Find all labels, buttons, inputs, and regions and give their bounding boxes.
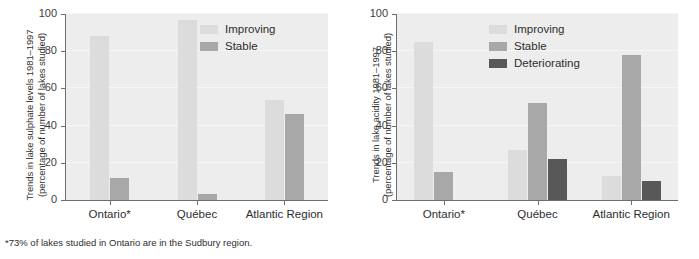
y-tick-mark: [392, 126, 396, 127]
y-tick-label: 60: [31, 81, 57, 93]
y-axis-title-line2: (percentage of number of lakes studied): [382, 10, 394, 220]
y-tick-label: 80: [362, 44, 388, 56]
y-tick-mark: [392, 14, 396, 15]
bar-acidity-1-2: [548, 159, 567, 200]
x-tick-mark: [110, 201, 111, 205]
y-axis-title-line2: (percentage of number of lakes studied): [36, 10, 48, 220]
legend-swatch-icon: [489, 59, 507, 68]
bar-sulphate-1-0: [178, 20, 197, 200]
bar-acidity-2-0: [602, 176, 621, 200]
y-axis-line-acidity: [396, 14, 397, 201]
y-tick-label: 0: [31, 193, 57, 205]
bar-sulphate-0-1: [110, 178, 129, 200]
legend-item-deteriorating: Deteriorating: [489, 56, 580, 70]
y-tick-mark: [61, 51, 65, 52]
bar-acidity-2-2: [642, 181, 661, 200]
y-tick-mark: [392, 200, 396, 201]
legend-swatch-icon: [489, 25, 507, 34]
legend-item-improving: Improving: [489, 22, 580, 36]
legend-label: Improving: [514, 23, 565, 35]
x-tick-mark: [284, 201, 285, 205]
x-tick-mark: [444, 201, 445, 205]
y-tick-mark: [61, 163, 65, 164]
y-axis-title-line1: Trends in lake acidity 1981–1997: [370, 10, 382, 220]
bar-acidity-0-1: [434, 172, 453, 200]
y-tick-mark: [392, 88, 396, 89]
gridline: [397, 13, 678, 14]
legend-sulphate: ImprovingStable: [200, 22, 276, 56]
y-tick-mark: [392, 163, 396, 164]
bar-acidity-0-0: [414, 42, 433, 200]
legend-item-improving: Improving: [200, 22, 276, 36]
plot-area-sulphate: [66, 14, 328, 200]
y-axis-title-acidity: Trends in lake acidity 1981–1997 (percen…: [370, 10, 393, 220]
y-tick-label: 0: [362, 193, 388, 205]
x-tick-label: Atlantic Region: [224, 208, 344, 220]
bar-sulphate-2-1: [285, 114, 304, 200]
legend-label: Stable: [225, 40, 258, 52]
bar-acidity-2-1: [622, 55, 641, 200]
footnote-ontario-sudbury: *73% of lakes studied in Ontario are in …: [5, 237, 252, 248]
legend-label: Stable: [514, 40, 547, 52]
x-tick-mark: [197, 201, 198, 205]
legend-swatch-icon: [200, 42, 218, 51]
x-tick-label: Atlantic Region: [571, 208, 691, 220]
legend-label: Deteriorating: [514, 57, 580, 69]
x-tick-mark: [538, 201, 539, 205]
chart-panel-acidity: Trends in lake acidity 1981–1997 (percen…: [349, 0, 699, 259]
y-axis-line-sulphate: [65, 14, 66, 201]
y-tick-mark: [61, 14, 65, 15]
bar-sulphate-2-0: [265, 100, 284, 200]
legend-acidity: ImprovingStableDeteriorating: [489, 22, 580, 73]
bar-acidity-1-0: [508, 150, 527, 200]
y-tick-mark: [61, 126, 65, 127]
y-tick-mark: [61, 200, 65, 201]
y-axis-title-sulphate: Trends in lake sulphate levels 1981–1997…: [24, 10, 47, 220]
gridline: [66, 13, 328, 14]
y-tick-label: 40: [31, 119, 57, 131]
y-tick-label: 100: [31, 7, 57, 19]
y-tick-mark: [61, 88, 65, 89]
bar-acidity-1-1: [528, 103, 547, 200]
legend-label: Improving: [225, 23, 276, 35]
legend-item-stable: Stable: [200, 39, 276, 53]
y-tick-label: 20: [31, 156, 57, 168]
chart-panel-sulphate: Trends in lake sulphate levels 1981–1997…: [0, 0, 350, 259]
y-tick-label: 20: [362, 156, 388, 168]
legend-swatch-icon: [489, 42, 507, 51]
y-tick-label: 80: [31, 44, 57, 56]
y-tick-label: 100: [362, 7, 388, 19]
y-tick-mark: [392, 51, 396, 52]
legend-swatch-icon: [200, 25, 218, 34]
y-tick-label: 40: [362, 119, 388, 131]
y-tick-label: 60: [362, 81, 388, 93]
legend-item-stable: Stable: [489, 39, 580, 53]
figure-two-bar-charts: Trends in lake sulphate levels 1981–1997…: [0, 0, 699, 259]
y-axis-title-line1: Trends in lake sulphate levels 1981–1997: [24, 10, 36, 220]
x-tick-mark: [631, 201, 632, 205]
bar-sulphate-0-0: [90, 36, 109, 200]
